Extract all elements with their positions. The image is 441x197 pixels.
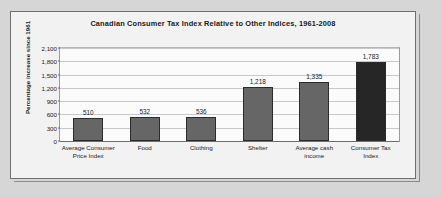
plot-area: 2,1001,8001,5001,2009006003000 510Averag… xyxy=(59,47,400,142)
bar-value-label: 532 xyxy=(139,108,150,115)
y-axis-tick-label: 1,800 xyxy=(42,58,57,65)
chart-figure-frame: Canadian Consumer Tax Index Relative to … xyxy=(10,11,416,179)
bar-value-label: 1,783 xyxy=(363,53,379,60)
figure-shadow-right xyxy=(419,14,420,182)
x-axis-category-label: Consumer Tax Index xyxy=(343,144,399,161)
bar-value-label: 1,335 xyxy=(306,73,322,80)
bar[interactable] xyxy=(130,117,160,141)
bar-group: 1,218Shelter xyxy=(230,48,287,141)
x-axis-category-label: Shelter xyxy=(230,144,286,152)
gridline xyxy=(60,141,399,142)
bar[interactable] xyxy=(299,82,329,141)
x-axis-category-label: Average Consumer Price Index xyxy=(60,144,116,161)
y-axis-tick-label: 600 xyxy=(47,111,57,118)
bar[interactable] xyxy=(73,118,103,141)
bar-group: 536Clothing xyxy=(173,48,230,141)
chart-title: Canadian Consumer Tax Index Relative to … xyxy=(11,19,415,28)
figure-shadow-bottom xyxy=(14,181,420,182)
y-axis-tick-label: 2,100 xyxy=(42,45,57,52)
bar-group: 510Average Consumer Price Index xyxy=(60,48,117,141)
y-axis-tick-label: 1,200 xyxy=(42,84,57,91)
bar[interactable] xyxy=(186,117,216,141)
y-axis-tick-label: 1,500 xyxy=(42,71,57,78)
y-axis-tick-label: 0 xyxy=(54,138,57,145)
bar-group: 1,335Average cash income xyxy=(286,48,343,141)
bar-value-label: 536 xyxy=(196,108,207,115)
y-axis-tick-label: 300 xyxy=(47,124,57,131)
bar[interactable] xyxy=(356,62,386,141)
y-axis-title: Percentage increase since 1961 xyxy=(24,14,31,122)
bar-series: 510Average Consumer Price Index532Food53… xyxy=(60,48,399,141)
bar-group: 1,783Consumer Tax Index xyxy=(343,48,400,141)
bar-group: 532Food xyxy=(117,48,174,141)
bar[interactable] xyxy=(243,87,273,141)
x-axis-category-label: Clothing xyxy=(173,144,229,152)
y-axis-tick-label: 900 xyxy=(47,98,57,105)
x-axis-category-label: Food xyxy=(117,144,173,152)
x-axis-category-label: Average cash income xyxy=(286,144,342,161)
bar-value-label: 510 xyxy=(83,109,94,116)
bar-value-label: 1,218 xyxy=(250,78,266,85)
